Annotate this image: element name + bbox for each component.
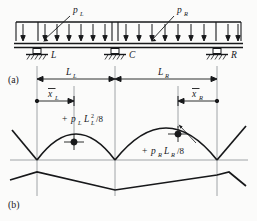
moment-annotation-right-sign: + xyxy=(142,146,147,156)
load-arrows-left-overhang xyxy=(21,24,25,41)
part-label-a: (a) xyxy=(8,74,19,86)
dim-arrow-left-span-start xyxy=(37,76,43,81)
moment-annotation-right-divisor: /8 xyxy=(177,146,185,156)
moment-curve-left-span xyxy=(37,134,115,160)
centroid-label-right-group: x R xyxy=(191,89,203,101)
load-label-right-leader xyxy=(151,16,174,42)
load-label-left: p xyxy=(72,5,78,15)
moment-annotation-left-exponent: 2 xyxy=(91,113,94,119)
moment-diagram-group xyxy=(10,126,248,190)
moment-annotation-right-base: p xyxy=(150,146,156,156)
span-label-left: L xyxy=(65,67,71,77)
dim-arrow-right-span-start xyxy=(115,76,121,81)
support-left xyxy=(26,49,48,60)
loaded-beam-group: p L p R L xyxy=(14,5,243,60)
moment-annotation-right-term-subscript: R xyxy=(170,151,175,158)
support-label-center: C xyxy=(129,50,136,60)
moment-curve-left-overhang xyxy=(12,130,37,160)
centroid-label-left: x xyxy=(47,89,53,99)
centroid-label-left-subscript: L xyxy=(54,94,59,101)
moment-annotation-left-term-subscript: L xyxy=(90,119,95,126)
support-center xyxy=(104,49,126,60)
moment-annotation-left-base-subscript: L xyxy=(77,119,82,126)
centroid-label-right: x xyxy=(191,89,197,99)
load-arrows-right-overhang xyxy=(226,24,240,41)
support-right xyxy=(206,49,228,60)
load-label-right: p xyxy=(176,5,182,15)
load-label-left-subscript: L xyxy=(79,10,84,17)
moment-annotation-left: + p L L 2 L /8 xyxy=(62,113,104,127)
moment-annotation-left-base: p xyxy=(70,114,76,124)
load-arrows-right-span xyxy=(124,24,206,41)
dim-dot-right-centroid-end xyxy=(215,99,218,102)
dim-arrow-left-centroid-end xyxy=(68,98,74,103)
moment-annotation-left-divisor: /8 xyxy=(96,114,104,124)
moment-curve-right-overhang xyxy=(217,126,246,160)
beam-moment-figure: p L p R L xyxy=(0,0,257,221)
span-dimension-group xyxy=(37,76,217,81)
span-label-left-subscript: L xyxy=(72,72,77,79)
support-guide-lines xyxy=(37,66,217,196)
load-label-right-subscript: R xyxy=(183,10,188,17)
part-label-b: (b) xyxy=(8,199,19,211)
dim-arrow-right-span-end xyxy=(211,76,217,81)
support-label-left: L xyxy=(50,50,56,60)
centroid-label-right-subscript: R xyxy=(198,94,203,101)
moment-curve-support-line xyxy=(10,172,246,190)
moment-annotation-left-term: L xyxy=(83,114,89,124)
moment-annotation-right: + p R L R /8 xyxy=(142,146,185,158)
centroid-label-left-group: x L xyxy=(47,89,59,101)
moment-annotation-right-term: L xyxy=(163,146,169,156)
centroid-marker-left xyxy=(64,134,84,150)
moment-annotation-left-sign: + xyxy=(62,114,67,124)
support-label-right: R xyxy=(230,50,237,60)
figure-page: p L p R L xyxy=(0,0,257,221)
moment-annotation-right-base-subscript: R xyxy=(157,151,162,158)
span-label-right-subscript: R xyxy=(164,72,169,79)
span-label-right: L xyxy=(157,67,163,77)
